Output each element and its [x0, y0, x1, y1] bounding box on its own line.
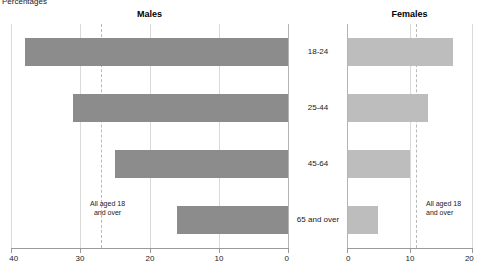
- gridline: [11, 24, 12, 248]
- bar-males-18-24: [25, 38, 288, 66]
- reference-line-annotation-females: All aged 18 and over: [426, 200, 461, 217]
- chart-container: Percentages Males Females 18-24 25-44 45…: [0, 0, 486, 272]
- panel-title-males: Males: [11, 9, 288, 19]
- category-label-18-24: 18-24: [289, 47, 347, 56]
- bar-females-45-64: [347, 150, 410, 178]
- plot-area-males: [11, 24, 288, 248]
- bar-females-18-24: [347, 38, 453, 66]
- zero-axis-females: [347, 24, 348, 248]
- axis-tick-label: 30: [76, 254, 85, 263]
- axis-tick: [472, 248, 473, 253]
- gridline: [472, 24, 473, 248]
- axis-tick-label: 40: [9, 254, 18, 263]
- bar-females-25-44: [347, 94, 428, 122]
- axis-tick: [11, 248, 12, 253]
- annotation-line-1: All aged 18: [426, 200, 461, 209]
- category-label-25-44: 25-44: [289, 103, 347, 112]
- unit-label: Percentages: [2, 0, 47, 6]
- bar-females-65-and-over: [347, 206, 378, 234]
- axis-tick: [150, 248, 151, 253]
- annotation-line-2: and over: [90, 209, 125, 218]
- axis-tick: [347, 248, 348, 253]
- bar-males-65-and-over: [177, 206, 288, 234]
- axis-tick-label: 0: [284, 254, 288, 263]
- axis-tick-label: 0: [346, 254, 350, 263]
- x-axis-females: 01020: [347, 248, 472, 254]
- panel-title-females: Females: [347, 9, 472, 19]
- axis-tick-label: 10: [215, 254, 224, 263]
- category-label-45-64: 45-64: [289, 159, 347, 168]
- category-label-column: 18-24 25-44 45-64 65 and over: [289, 24, 347, 248]
- axis-tick-label: 20: [146, 254, 155, 263]
- bar-males-25-44: [73, 94, 288, 122]
- axis-tick-label: 20: [465, 254, 474, 263]
- x-axis-males: 403020100: [11, 248, 288, 254]
- category-label-65-and-over: 65 and over: [289, 215, 347, 224]
- annotation-line-2: and over: [426, 209, 461, 218]
- reference-line-annotation-males: All aged 18 and over: [90, 200, 125, 217]
- axis-tick: [288, 248, 289, 253]
- axis-tick: [80, 248, 81, 253]
- annotation-line-1: All aged 18: [90, 200, 125, 209]
- axis-tick: [219, 248, 220, 253]
- axis-tick: [410, 248, 411, 253]
- axis-tick-label: 10: [406, 254, 415, 263]
- bar-males-45-64: [115, 150, 288, 178]
